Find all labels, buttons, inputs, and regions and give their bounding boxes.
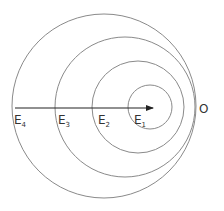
- circle-e2: [92, 61, 184, 153]
- circle-e4: [12, 14, 196, 198]
- label-e3: E3: [58, 113, 70, 129]
- concentric-circles-diagram: E4E3E2E1 O: [0, 0, 224, 211]
- point-o-label: O: [199, 102, 208, 116]
- label-e2: E2: [98, 113, 110, 129]
- circle-e3: [55, 37, 195, 177]
- label-e4: E4: [14, 113, 27, 129]
- label-e1: E1: [134, 113, 146, 129]
